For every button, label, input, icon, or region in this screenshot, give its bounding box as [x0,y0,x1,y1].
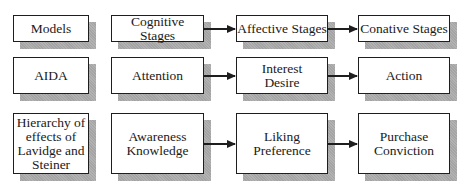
box-text: Affective Stages [237,22,326,36]
box-text: Action [386,69,423,83]
arrow-right-icon [204,28,235,30]
stage-box-liking-preference: Liking Preference [236,113,328,174]
box-text: Hierarchy of effects of Lavidge and Stei… [17,116,86,172]
row-label-lavidge-steiner: Hierarchy of effects of Lavidge and Stei… [13,113,89,174]
stage-box-awareness-knowledge: Awareness Knowledge [111,113,204,174]
stage-box-attention: Attention [111,57,204,94]
box-text: Models [31,22,72,36]
row-label-aida: AIDA [13,57,89,94]
stage-box-purchase-conviction: Purchase Conviction [358,113,450,174]
box-text: Awareness Knowledge [126,130,188,158]
box-text: Liking Preference [253,130,311,158]
stage-box-affective: Affective Stages [236,15,328,42]
arrow-right-icon [204,143,235,145]
stage-box-conative: Conative Stages [358,15,450,42]
arrow-right-icon [204,75,235,77]
box-text: Conative Stages [360,22,447,36]
arrow-right-icon [328,75,357,77]
stage-box-action: Action [358,57,450,94]
arrow-right-icon [328,28,357,30]
box-text: Attention [132,69,183,83]
box-text: Purchase Conviction [374,130,434,158]
stage-box-cognitive: Cognitive Stages [111,15,204,42]
stage-box-interest-desire: Interest Desire [236,57,328,94]
row-label-models: Models [13,15,89,42]
box-text: Interest Desire [262,62,302,90]
box-text: Cognitive Stages [112,15,203,43]
box-text: AIDA [34,69,68,83]
arrow-right-icon [328,143,357,145]
